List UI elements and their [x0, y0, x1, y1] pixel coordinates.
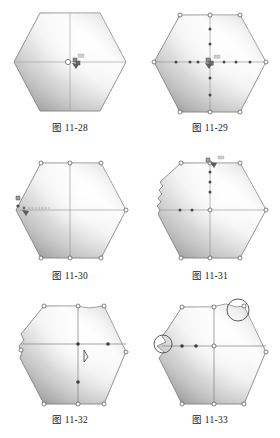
- figure-sheet: 图 11-28: [0, 0, 280, 438]
- hexagon-body-notched: [19, 306, 126, 404]
- figure-11-30-canvas[interactable]: [0, 148, 140, 272]
- figure-11-29: 图 11-29: [140, 0, 280, 146]
- figure-11-28-canvas[interactable]: [0, 0, 140, 124]
- figure-caption: 图 11-32: [0, 412, 140, 426]
- figure-11-30: X: -35.28 mm Y: 24.94 mm 图 11-30: [0, 148, 140, 294]
- figure-caption: 图 11-33: [140, 412, 280, 426]
- figure-caption: 图 11-30: [0, 268, 140, 282]
- figure-11-31-canvas[interactable]: [140, 148, 280, 272]
- figure-11-32-canvas[interactable]: [0, 294, 140, 418]
- figure-caption: 图 11-31: [140, 268, 280, 282]
- figure-11-33: 图 11-33: [140, 294, 280, 438]
- figure-11-28: 图 11-28: [0, 0, 140, 146]
- figure-11-31: X: 0.5 mm Y: -1.09 mm 图 11-31: [140, 148, 280, 294]
- figure-11-32: 图 11-32: [0, 294, 140, 438]
- center-handle: [65, 59, 70, 64]
- figure-11-29-canvas[interactable]: [140, 0, 280, 124]
- hexagon-body-notched: [157, 304, 266, 404]
- figure-11-33-canvas[interactable]: [140, 294, 280, 418]
- hexagon-body: [16, 163, 126, 258]
- figure-caption: 图 11-28: [0, 120, 140, 134]
- figure-caption: 图 11-29: [140, 120, 280, 134]
